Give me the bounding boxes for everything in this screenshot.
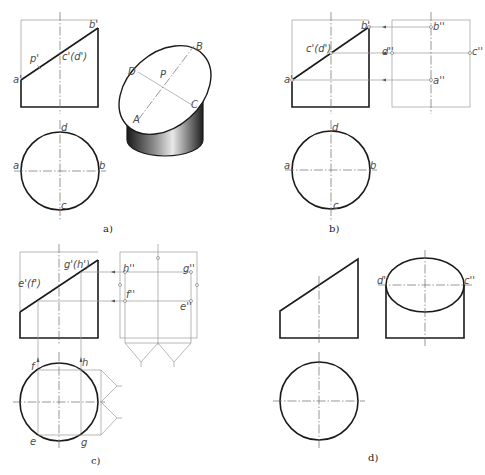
width-transfer-bracket-side bbox=[125, 343, 191, 367]
point-label: f'' bbox=[126, 289, 135, 300]
point-label: B bbox=[196, 41, 203, 52]
panel-captions: a)b)c)d) bbox=[91, 223, 378, 466]
point-label: A bbox=[132, 114, 140, 125]
point-label: c'(d') bbox=[62, 51, 87, 62]
point-label: d'' bbox=[382, 46, 394, 57]
point-label: b' bbox=[361, 20, 370, 31]
point-label: b'' bbox=[433, 21, 445, 32]
point-label: d bbox=[332, 122, 339, 133]
caption-panel-a: a) bbox=[103, 223, 113, 234]
point-label: b' bbox=[89, 19, 98, 30]
front-view-c bbox=[20, 244, 98, 435]
point-label: g'(h') bbox=[64, 259, 90, 270]
panel-c bbox=[13, 244, 199, 450]
point-label: g bbox=[81, 437, 87, 448]
front-view-d bbox=[280, 259, 358, 345]
point-label: D bbox=[128, 66, 136, 77]
point-label: e bbox=[30, 436, 36, 447]
point-label: c bbox=[61, 200, 67, 211]
panel-d bbox=[273, 250, 472, 450]
point-label: h'' bbox=[123, 263, 135, 274]
point-label: c'' bbox=[464, 275, 475, 286]
point-label: a' bbox=[13, 74, 22, 85]
point-label: g'' bbox=[183, 263, 195, 274]
point-label: c'' bbox=[472, 46, 483, 57]
point-label: p' bbox=[29, 53, 39, 64]
cylinder-3d-view bbox=[102, 28, 229, 156]
point-label: C bbox=[191, 99, 198, 110]
point-label: a bbox=[13, 160, 19, 171]
point-label: h bbox=[82, 357, 88, 368]
top-view-b bbox=[285, 120, 377, 220]
front-view-b bbox=[291, 12, 371, 114]
top-view-a bbox=[14, 120, 106, 220]
point-label: a bbox=[284, 160, 290, 171]
point-label: d'' bbox=[377, 275, 389, 286]
point-label: a' bbox=[284, 74, 293, 85]
point-label: c bbox=[333, 200, 339, 211]
point-label: e'' bbox=[180, 301, 192, 312]
top-view-d bbox=[273, 352, 365, 450]
point-label: b bbox=[370, 160, 376, 171]
point-label: a'' bbox=[433, 75, 445, 86]
point-label: P bbox=[160, 69, 167, 80]
point-label: e'(f') bbox=[18, 278, 41, 289]
top-view-c bbox=[13, 352, 105, 450]
technical-drawing-figure: b'p'c'(d')a'dabcBDPCAb'c'(d')a'b''d''c''… bbox=[0, 0, 485, 475]
caption-panel-b: b) bbox=[329, 223, 339, 234]
point-label: d bbox=[61, 122, 68, 133]
width-transfer-bracket-top bbox=[101, 370, 122, 435]
point-labels: b'p'c'(d')a'dabcBDPCAb'c'(d')a'b''d''c''… bbox=[13, 19, 483, 448]
caption-panel-d: d) bbox=[368, 452, 378, 463]
projection-lines-c bbox=[38, 271, 191, 303]
side-view-d bbox=[378, 250, 472, 347]
point-label: b bbox=[99, 160, 105, 171]
caption-panel-c: c) bbox=[91, 455, 101, 466]
point-label: c'(d') bbox=[306, 43, 331, 54]
